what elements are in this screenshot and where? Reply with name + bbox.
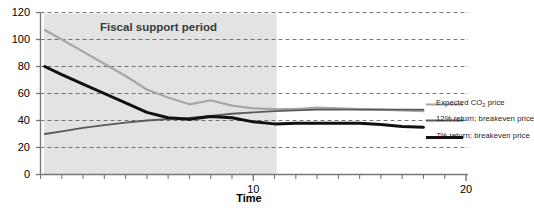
y-tick-label-20: 20 [4, 141, 30, 153]
legend-text-prefix: Expected CO [436, 98, 482, 107]
x-axis-title: Time [219, 192, 279, 204]
legend-label-expected-co2-price: Expected CO2 price [436, 98, 505, 107]
y-tick-label-40: 40 [4, 114, 30, 126]
band-label-fiscal-support: Fiscal support period [100, 21, 217, 33]
y-tick-label-0: 0 [4, 168, 30, 180]
y-tick-label-120: 120 [4, 6, 30, 18]
legend-label-12-percent-return: 12% return; breakeven price [436, 114, 534, 123]
x-tick-label-20: 20 [451, 183, 481, 195]
legend-label-7-percent-return: 7% return; breakeven price [436, 131, 530, 140]
legend-text-suffix: price [485, 98, 504, 107]
y-tick-label-80: 80 [4, 60, 30, 72]
y-tick-label-60: 60 [4, 87, 30, 99]
y-tick-label-100: 100 [4, 33, 30, 45]
